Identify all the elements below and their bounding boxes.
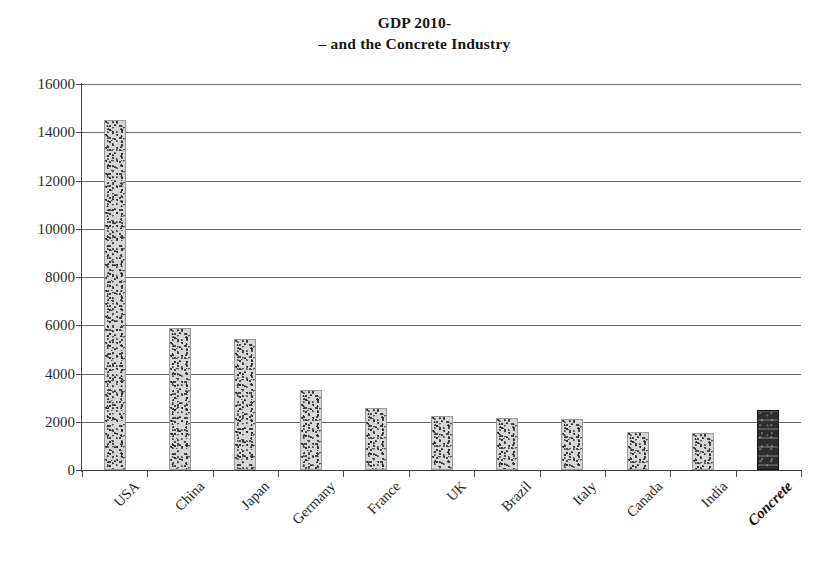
y-axis-tick — [76, 84, 83, 85]
chart-title: GDP 2010- – and the Concrete Industry — [0, 12, 829, 54]
y-axis-tick — [76, 325, 83, 326]
x-axis-label-india: India — [698, 478, 731, 511]
bar-canada — [627, 432, 649, 470]
x-axis-label-italy: Italy — [569, 478, 600, 509]
x-axis-label-canada: Canada — [623, 478, 666, 521]
x-axis-tick — [343, 470, 344, 477]
y-axis-label: 10000 — [5, 220, 75, 237]
bar-italy — [561, 419, 583, 470]
bar-japan — [234, 339, 256, 470]
bar-concrete — [757, 410, 779, 470]
x-axis-tick — [147, 470, 148, 477]
gridline — [82, 229, 801, 230]
y-axis-label: 4000 — [5, 365, 75, 382]
y-axis-tick — [76, 277, 83, 278]
bar-brazil — [496, 418, 518, 470]
x-axis-label-germany: Germany — [289, 478, 339, 528]
gridline — [82, 277, 801, 278]
bar-india — [692, 433, 714, 470]
x-axis-tick — [474, 470, 475, 477]
bar-usa — [104, 120, 126, 470]
x-axis-tick — [801, 470, 802, 477]
bar-uk — [431, 416, 453, 470]
gridline — [82, 132, 801, 133]
y-axis-tick — [76, 374, 83, 375]
x-axis-tick — [670, 470, 671, 477]
y-axis-label: 6000 — [5, 317, 75, 334]
gdp-concrete-bar-chart: GDP 2010- – and the Concrete Industry 16… — [0, 0, 829, 585]
gridline — [82, 181, 801, 182]
x-axis-tick — [605, 470, 606, 477]
plot-area — [82, 84, 801, 470]
y-axis-tick — [76, 422, 83, 423]
gridline — [82, 325, 801, 326]
y-axis-tick — [76, 181, 83, 182]
x-axis-baseline — [82, 470, 801, 471]
y-axis-label: 14000 — [5, 124, 75, 141]
y-axis-label: 8000 — [5, 269, 75, 286]
x-axis-tick — [213, 470, 214, 477]
x-axis-tick — [409, 470, 410, 477]
x-axis-label-brazil: Brazil — [498, 478, 535, 515]
x-axis-label-china: China — [172, 478, 209, 515]
y-axis-label: 12000 — [5, 172, 75, 189]
x-axis-label-usa: USA — [110, 478, 143, 511]
chart-title-line-2: – and the Concrete Industry — [0, 33, 829, 54]
x-axis-tick — [736, 470, 737, 477]
y-axis-label: 2000 — [5, 413, 75, 430]
x-axis-label-uk: UK — [443, 478, 470, 505]
x-axis-label-japan: Japan — [238, 478, 273, 513]
y-axis-tick — [76, 229, 83, 230]
x-axis-label-concrete: Concrete — [745, 478, 796, 529]
x-axis-tick — [540, 470, 541, 477]
bar-germany — [300, 390, 322, 470]
y-axis-label: 0 — [5, 462, 75, 479]
y-axis-tick — [76, 132, 83, 133]
gridline — [82, 84, 801, 85]
x-axis-tick — [278, 470, 279, 477]
x-axis-label-france: France — [364, 478, 404, 518]
bar-china — [169, 328, 191, 470]
bar-france — [365, 408, 387, 470]
chart-title-line-1: GDP 2010- — [0, 12, 829, 33]
x-axis-tick — [82, 470, 83, 477]
y-axis-label: 16000 — [5, 76, 75, 93]
